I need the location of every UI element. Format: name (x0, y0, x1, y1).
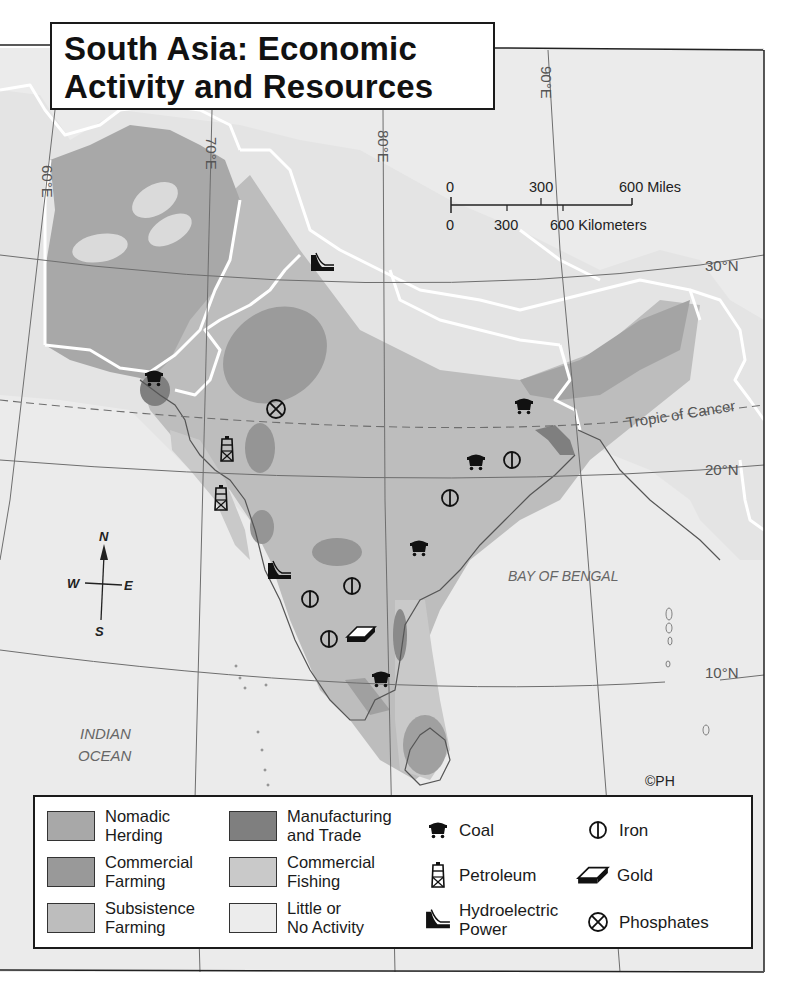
label-10n: 10°N (705, 664, 739, 681)
label-70e: 70°E (203, 137, 220, 170)
title-line-1: South Asia: Economic (64, 30, 493, 68)
legend-gold: Gold (575, 863, 653, 887)
legend-commercial-fishing: Commercial Fishing (229, 853, 375, 891)
label-60e: 60°E (39, 165, 56, 198)
oil-derrick-icon (423, 863, 453, 887)
label-80e: 80°E (375, 130, 392, 163)
svg-text:600 Miles: 600 Miles (619, 179, 681, 195)
legend-manufacturing-trade: Manufacturing and Trade (229, 807, 392, 845)
map-legend: Nomadic Herding Commercial Farming Subsi… (33, 795, 753, 949)
copyright-label: ©PH (645, 773, 675, 789)
svg-text:E: E (124, 578, 133, 593)
title-line-2: Activity and Resources (64, 68, 493, 106)
swatch-subsistence-farming (47, 903, 95, 933)
gold-bar-icon (575, 863, 611, 887)
svg-text:600 Kilometers: 600 Kilometers (550, 217, 647, 233)
svg-text:0: 0 (446, 179, 454, 195)
legend-little-activity: Little or No Activity (229, 899, 364, 937)
svg-text:S: S (95, 624, 104, 639)
iron-circle-icon (583, 818, 613, 842)
label-90e: 90°E (538, 66, 555, 99)
legend-phosphates: Phosphates (583, 910, 709, 934)
legend-iron: Iron (583, 818, 648, 842)
legend-hydroelectric: Hydroelectric Power (423, 901, 558, 939)
svg-text:0: 0 (446, 217, 454, 233)
legend-subsistence-farming: Subsistence Farming (47, 899, 195, 937)
svg-text:N: N (99, 529, 109, 544)
swatch-manufacturing-trade (229, 811, 277, 841)
commercial-farming-deccan (312, 538, 362, 566)
commercial-farming-andhra (393, 609, 407, 661)
circled-x-icon (583, 910, 613, 934)
label-indian-ocean-2: OCEAN (78, 747, 132, 764)
label-bay-of-bengal: BAY OF BENGAL (508, 568, 619, 584)
label-indian-ocean-1: INDIAN (80, 725, 131, 742)
label-30n: 30°N (705, 257, 739, 274)
label-20n: 20°N (705, 461, 739, 478)
commercial-farming-gujarat (245, 423, 275, 473)
swatch-little-activity (229, 903, 277, 933)
coal-cart-icon (423, 818, 453, 842)
legend-nomadic-herding: Nomadic Herding (47, 807, 170, 845)
swatch-commercial-farming (47, 857, 95, 887)
legend-commercial-farming: Commercial Farming (47, 853, 193, 891)
commercial-farming-srilanka (403, 715, 447, 775)
legend-petroleum: Petroleum (423, 863, 536, 887)
svg-text:W: W (67, 576, 81, 591)
swatch-commercial-fishing (229, 857, 277, 887)
swatch-nomadic-herding (47, 811, 95, 841)
map-title-box: South Asia: Economic Activity and Resour… (50, 22, 495, 110)
legend-coal: Coal (423, 818, 494, 842)
svg-text:300: 300 (529, 179, 553, 195)
svg-text:300: 300 (494, 217, 518, 233)
dam-icon (423, 908, 453, 932)
